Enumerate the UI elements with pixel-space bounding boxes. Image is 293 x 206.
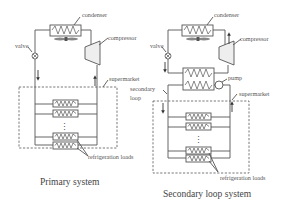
secondary-line-top-left bbox=[168, 30, 182, 53]
primary-loads-label: refrigeration loads bbox=[88, 153, 134, 160]
secondary-compressor-label: compressor bbox=[240, 35, 269, 42]
secondary-condenser bbox=[182, 25, 213, 41]
primary-valve-icon bbox=[32, 53, 38, 59]
secondary-condenser-label: condenser bbox=[214, 11, 239, 18]
secondary-valve-label: valve bbox=[150, 42, 164, 49]
primary-loads: ⋮ bbox=[35, 100, 97, 149]
secondary-supermarket-label: supermarket bbox=[239, 90, 270, 97]
secondary-line-top-right bbox=[213, 30, 225, 47]
refrigeration-diagram: ⋮ condenser compressor valve supermarket… bbox=[0, 0, 293, 206]
primary-condenser bbox=[50, 25, 81, 41]
secondary-loop-label-line2: loop bbox=[130, 94, 141, 101]
pump-label: pump bbox=[228, 74, 242, 81]
secondary-system: ⋮ condenser compressor valve pump superm… bbox=[130, 11, 270, 199]
primary-system: ⋮ condenser compressor valve supermarket… bbox=[15, 11, 140, 187]
fan-icon bbox=[54, 38, 66, 41]
secondary-loads: ⋮ bbox=[168, 113, 230, 162]
secondary-ellipsis: ⋮ bbox=[194, 135, 203, 145]
secondary-loop-label-line1: secondary bbox=[130, 85, 156, 92]
primary-line-top-right bbox=[81, 30, 91, 47]
secondary-loop-right bbox=[223, 85, 230, 158]
primary-valve-label: valve bbox=[15, 42, 29, 49]
primary-ellipsis: ⋮ bbox=[60, 122, 69, 132]
primary-compressor-icon bbox=[85, 41, 100, 65]
secondary-loads-label: refrigeration loads bbox=[220, 174, 266, 181]
secondary-compressor-icon bbox=[219, 41, 234, 65]
secondary-loop-left bbox=[168, 85, 183, 158]
fan-icon bbox=[186, 38, 198, 41]
secondary-valve-icon bbox=[165, 53, 171, 59]
primary-supermarket-label: supermarket bbox=[109, 75, 140, 82]
pump-icon bbox=[215, 81, 223, 89]
primary-compressor-label: compressor bbox=[108, 34, 137, 41]
primary-condenser-label: condenser bbox=[82, 11, 107, 18]
secondary-caption: Secondary loop system bbox=[163, 189, 252, 199]
primary-line-top-left bbox=[35, 30, 50, 53]
primary-caption: Primary system bbox=[40, 177, 100, 187]
secondary-heat-exchanger bbox=[183, 68, 214, 90]
